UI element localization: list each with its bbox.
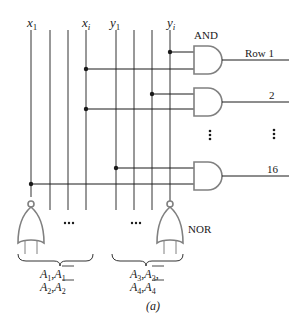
junction-dot <box>168 50 172 54</box>
svg-text:A4,A4: A4,A4 <box>129 280 156 296</box>
left-group-label: A1,A1 A2,A2 <box>39 266 74 296</box>
label-x1: x1 <box>26 15 37 32</box>
svg-text:A2,A2: A2,A2 <box>39 280 66 296</box>
and-gate-row-2 <box>194 88 222 116</box>
row-label-16: 16 <box>267 163 279 175</box>
vertical-ellipsis <box>209 129 276 141</box>
label-xi: xi <box>81 15 91 32</box>
junction-dot <box>150 92 154 96</box>
column-labels: x1 xi y1 yi <box>26 15 176 32</box>
nor-gate-right <box>157 207 183 243</box>
and-label: AND <box>194 29 218 41</box>
nor-label: NOR <box>188 223 212 235</box>
junction-dot <box>114 166 118 170</box>
horizontal-ellipsis <box>64 222 141 224</box>
brace-right <box>112 254 183 266</box>
right-group-label: A3,A3, A4,A4 <box>129 266 164 296</box>
and-gates <box>194 46 222 190</box>
decoder-diagram: x1 xi y1 yi AND NOR Row 1 2 16 A1,A1 A2,… <box>0 0 303 321</box>
braces <box>18 254 183 266</box>
and-gate-row-16 <box>194 162 222 190</box>
output-lines <box>222 60 289 176</box>
and-gate-row-1 <box>194 46 222 74</box>
nor-gates <box>18 201 183 243</box>
label-yi: yi <box>165 15 176 32</box>
junction-dot <box>29 182 33 186</box>
nor-gate-left <box>18 207 44 243</box>
label-y1: y1 <box>108 15 120 32</box>
junction-dot <box>84 107 88 111</box>
brace-left <box>18 254 93 266</box>
figure-caption: (a) <box>146 299 160 313</box>
row-label-2: 2 <box>269 89 275 101</box>
row-label-1: Row 1 <box>245 47 274 59</box>
vertical-input-lines <box>31 30 170 210</box>
nor-input-lines <box>25 240 176 254</box>
junction-dot <box>84 67 88 71</box>
